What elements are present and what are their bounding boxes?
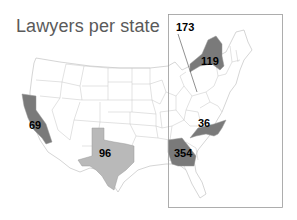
label-california: 69 bbox=[29, 119, 41, 131]
label-new-york: 119 bbox=[201, 55, 219, 67]
label-pennsylvania: 173 bbox=[176, 21, 194, 33]
label-georgia: 354 bbox=[174, 147, 193, 159]
us-map: 69 96 119 173 36 354 bbox=[0, 0, 297, 220]
label-texas: 96 bbox=[99, 147, 111, 159]
label-north-carolina: 36 bbox=[198, 117, 210, 129]
